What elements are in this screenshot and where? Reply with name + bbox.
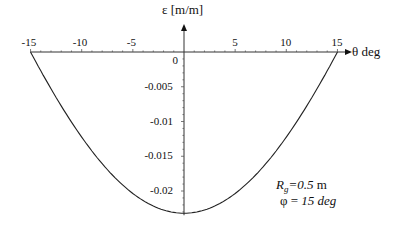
x-tick-label: -15 [22,36,37,48]
annotation-rg: Rg=0.5 m [276,177,327,194]
x-tick-label: -10 [73,36,88,48]
x-axis-label: θ deg [352,44,380,60]
y-tick-label: -0.005 [144,80,172,92]
x-tick-label: 5 [232,36,238,48]
y-tick-label: 0 [172,54,178,66]
x-tick-label: -5 [127,36,136,48]
y-axis-label: ε [m/m] [162,2,203,18]
phi-value: 15 deg [301,193,336,208]
y-tick-label: -0.02 [150,184,173,196]
annotation-phi: φ = 15 deg [280,193,336,209]
rg-unit: m [313,177,326,192]
x-axis-arrow-icon [345,49,352,55]
phi-symbol: φ = [280,193,301,208]
y-axis-arrow-icon [181,24,187,31]
rg-symbol: R [276,177,284,192]
rg-value: =0.5 [288,177,313,192]
y-tick-label: -0.01 [150,115,173,127]
x-tick-label: 15 [331,36,342,48]
x-tick-label: 10 [280,36,291,48]
y-tick-label: -0.015 [144,149,172,161]
chart-canvas [0,0,413,226]
